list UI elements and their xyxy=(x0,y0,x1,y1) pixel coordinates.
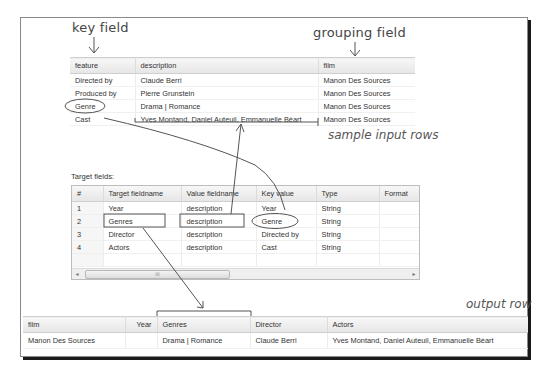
cell-value-fieldname[interactable]: description xyxy=(181,215,256,228)
target-table-header: # Target fieldname Value fieldname Key v… xyxy=(72,186,419,202)
cell-target-fieldname[interactable]: Genres xyxy=(103,215,181,228)
table-row[interactable]: 3 Director description Directed by Strin… xyxy=(72,228,419,241)
cell-description: Claude Berri xyxy=(135,74,318,87)
cell-key-value[interactable]: Directed by xyxy=(256,228,316,241)
cell-type[interactable]: String xyxy=(316,241,379,254)
cell-number[interactable]: 1 xyxy=(72,202,103,215)
cell-number[interactable]: 3 xyxy=(72,228,103,241)
cell-key-value[interactable]: Genre xyxy=(256,215,316,228)
table-row: Directed by Claude Berri Manon Des Sourc… xyxy=(70,74,415,87)
cell-format[interactable] xyxy=(379,202,419,215)
table-row[interactable]: 2 Genres description Genre String xyxy=(72,215,419,228)
cell-value-fieldname[interactable]: description xyxy=(181,202,256,215)
column-header-description[interactable]: description xyxy=(135,58,318,74)
cell-number[interactable]: 2 xyxy=(72,215,103,228)
cell-genres: Drama | Romance xyxy=(157,333,250,349)
cell-feature: Genre xyxy=(70,100,135,113)
table-row: Manon Des Sources Drama | Romance Claude… xyxy=(23,333,528,349)
column-header-year[interactable]: Year xyxy=(125,317,157,333)
cell-film: Manon Des Sources xyxy=(318,87,415,100)
output-table-header: film Year Genres Director Actors xyxy=(23,317,528,333)
column-header-target-fieldname[interactable]: Target fieldname xyxy=(103,186,181,202)
cell-feature: Produced by xyxy=(70,87,135,100)
scroll-right-arrow-icon[interactable]: ▸ xyxy=(409,269,419,279)
column-header-feature[interactable]: feature xyxy=(70,58,135,74)
cell-film: Manon Des Sources xyxy=(318,74,415,87)
column-header-film[interactable]: film xyxy=(23,317,125,333)
target-fields-table: # Target fieldname Value fieldname Key v… xyxy=(72,186,419,267)
scrollbar-thumb[interactable]: III xyxy=(85,270,230,279)
table-row: Produced by Pierre Grunstein Manon Des S… xyxy=(70,87,415,100)
cell-number[interactable] xyxy=(72,254,103,267)
cell-number[interactable]: 4 xyxy=(72,241,103,254)
cell-format[interactable] xyxy=(379,228,419,241)
cell-film: Manon Des Sources xyxy=(23,333,125,349)
cell-target-fieldname[interactable]: Actors xyxy=(103,241,181,254)
column-header-genres[interactable]: Genres xyxy=(157,317,250,333)
cell-value-fieldname[interactable]: description xyxy=(181,228,256,241)
cell-feature: Cast xyxy=(70,113,135,126)
cell-actors: Yves Montand, Daniel Auteuil, Emmanuelle… xyxy=(327,333,528,349)
cell-type[interactable]: String xyxy=(316,215,379,228)
column-header-key-value[interactable]: Key value xyxy=(256,186,316,202)
table-row: Genre Drama | Romance Manon Des Sources xyxy=(70,100,415,113)
table-row-empty[interactable] xyxy=(72,254,419,267)
cell-type[interactable]: String xyxy=(316,228,379,241)
cell-empty[interactable] xyxy=(181,254,256,267)
column-header-type[interactable]: Type xyxy=(316,186,379,202)
grouping-field-label: grouping field xyxy=(313,25,406,40)
target-fields-label: Target fields: xyxy=(71,172,114,181)
cell-type[interactable]: String xyxy=(316,202,379,215)
cell-description: Yves Montand, Daniel Auteuil, Emmanuelle… xyxy=(135,113,318,126)
column-header-value-fieldname[interactable]: Value fieldname xyxy=(181,186,256,202)
cell-empty[interactable] xyxy=(379,254,419,267)
cell-value-fieldname[interactable]: description xyxy=(181,241,256,254)
sample-input-rows-label: sample input rows xyxy=(328,128,438,142)
cell-format[interactable] xyxy=(379,215,419,228)
table-row: Cast Yves Montand, Daniel Auteuil, Emman… xyxy=(70,113,415,126)
cell-film: Manon Des Sources xyxy=(318,100,415,113)
cell-description: Drama | Romance xyxy=(135,100,318,113)
column-header-number[interactable]: # xyxy=(72,186,103,202)
cell-empty[interactable] xyxy=(316,254,379,267)
cell-feature: Directed by xyxy=(70,74,135,87)
cell-empty[interactable] xyxy=(103,254,181,267)
horizontal-scrollbar[interactable]: ◂ III ▸ xyxy=(72,268,419,279)
scroll-left-arrow-icon[interactable]: ◂ xyxy=(72,269,82,279)
column-header-actors[interactable]: Actors xyxy=(327,317,528,333)
column-header-film[interactable]: film xyxy=(318,58,415,74)
cell-key-value[interactable]: Year xyxy=(256,202,316,215)
cell-description: Pierre Grunstein xyxy=(135,87,318,100)
input-table-header: feature description film xyxy=(70,58,415,74)
cell-target-fieldname[interactable]: Director xyxy=(103,228,181,241)
cell-film: Manon Des Sources xyxy=(318,113,415,126)
output-row-label: output row xyxy=(466,297,531,311)
table-row[interactable]: 4 Actors description Cast String xyxy=(72,241,419,254)
cell-key-value[interactable]: Cast xyxy=(256,241,316,254)
column-header-format[interactable]: Format xyxy=(379,186,419,202)
cell-empty[interactable] xyxy=(256,254,316,267)
table-row[interactable]: 1 Year description Year String xyxy=(72,202,419,215)
sample-input-table: feature description film Directed by Cla… xyxy=(70,57,415,126)
target-fields-grid: # Target fieldname Value fieldname Key v… xyxy=(71,185,420,280)
cell-format[interactable] xyxy=(379,241,419,254)
column-header-director[interactable]: Director xyxy=(250,317,327,333)
cell-target-fieldname[interactable]: Year xyxy=(103,202,181,215)
output-row-table: film Year Genres Director Actors Manon D… xyxy=(23,316,528,349)
key-field-label: key field xyxy=(72,20,129,35)
cell-director: Claude Berri xyxy=(250,333,327,349)
cell-year xyxy=(125,333,157,349)
